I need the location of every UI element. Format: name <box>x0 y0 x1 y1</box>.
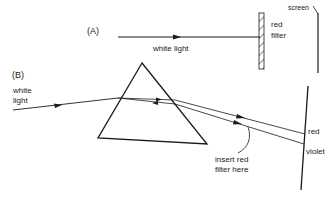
red-filter-label-1: red <box>271 20 283 29</box>
arrow-icon <box>233 120 242 125</box>
white-light-label-a: white light <box>153 44 189 53</box>
red-filter <box>259 13 264 69</box>
screen-label-pointer <box>313 6 318 14</box>
screen-label: screen <box>288 3 309 12</box>
violet-label: violet <box>306 147 325 156</box>
part-a-label: (A) <box>87 26 99 36</box>
arrow-icon <box>156 98 162 102</box>
arrow-icon <box>173 35 181 40</box>
prism <box>98 63 207 144</box>
insert-filter-annotation-2: filter here <box>215 165 248 174</box>
white-light-label-b-1: white <box>13 86 32 95</box>
part-a <box>118 6 318 73</box>
red-label: red <box>308 127 320 136</box>
insert-filter-annotation-1: insert red <box>215 155 248 164</box>
annotation-pointer <box>238 127 250 153</box>
arrow-icon <box>236 114 245 119</box>
screen-b <box>301 86 308 190</box>
white-light-label-b-2: light <box>13 96 28 105</box>
white-light-beam-b <box>13 98 118 110</box>
part-b <box>13 63 308 190</box>
part-b-label: (B) <box>12 70 24 80</box>
red-filter-label-2: filter <box>271 31 286 40</box>
